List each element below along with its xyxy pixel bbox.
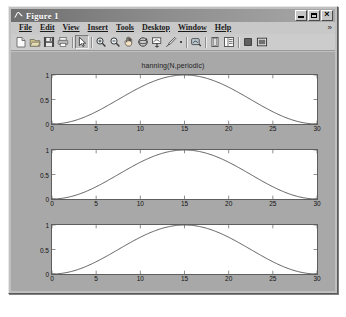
link-plot-icon[interactable]	[189, 35, 203, 49]
legend-icon[interactable]	[222, 35, 236, 49]
subplot-2-ytick-0: 0	[45, 196, 49, 203]
subplot-2-xtick-15: 15	[181, 200, 188, 207]
subplot-3-ytick-0.5: 0.5	[40, 246, 49, 253]
menu-item-help[interactable]: Help	[211, 22, 235, 34]
menubar: File Edit View Insert Tools Desktop Wind…	[11, 22, 335, 34]
subplot-3-xtick-25: 25	[269, 275, 276, 282]
menu-label-edit: Edit	[40, 23, 55, 32]
subplot-1-xtick-5: 5	[94, 125, 98, 132]
toolbar	[11, 34, 335, 51]
subplot-3-ytick-1: 1	[45, 222, 49, 229]
minimize-icon	[298, 16, 304, 18]
subplot-3-xtick-0: 0	[50, 275, 54, 282]
menu-item-insert[interactable]: Insert	[84, 22, 112, 34]
subplot-1-xtick-10: 10	[137, 125, 144, 132]
subplot-1-axes[interactable]: 1 0.5 0 0 5 10 15 20 25 30	[51, 74, 318, 125]
subplot-1-xtick-30: 30	[313, 125, 320, 132]
subplot-3-xtick-20: 20	[225, 275, 232, 282]
menu-label-tools: Tools	[116, 23, 134, 32]
screenshot-root: Figure 1 × File Edit View Insert Tools D…	[0, 0, 346, 317]
subplot-1-plotline	[52, 75, 317, 124]
subplot-1-ytick-1: 1	[45, 72, 49, 79]
subplot-3-xtick-10: 10	[137, 275, 144, 282]
menu-item-desktop[interactable]: Desktop	[138, 22, 174, 34]
minimize-button[interactable]	[295, 10, 307, 21]
brush-data-icon[interactable]	[164, 35, 178, 49]
subplot-2-xtick-30: 30	[313, 200, 320, 207]
zoom-in-icon[interactable]	[94, 35, 108, 49]
subplot-3-ytick-0: 0	[45, 271, 49, 278]
subplot-2-xtick-20: 20	[225, 200, 232, 207]
subplot-2-ytick-1: 1	[45, 147, 49, 154]
menu-item-window[interactable]: Window	[174, 22, 211, 34]
maximize-button[interactable]	[308, 10, 320, 21]
data-cursor-icon[interactable]	[150, 35, 164, 49]
subplot-2-plotline	[52, 150, 317, 199]
matlab-figure-icon	[14, 11, 23, 20]
plot-title: hanning(N,periodic)	[11, 62, 335, 69]
subplot-3-plotline	[52, 225, 317, 274]
zoom-out-icon[interactable]	[108, 35, 122, 49]
close-icon: ×	[322, 10, 332, 19]
menu-label-window: Window	[178, 23, 207, 32]
menu-label-desktop: Desktop	[142, 23, 170, 32]
subplot-2-xtick-10: 10	[137, 200, 144, 207]
menu-label-help: Help	[215, 23, 231, 32]
figure-canvas: hanning(N,periodic) 1 0.5 0 0 5 10 15 20…	[11, 52, 335, 291]
open-file-icon[interactable]	[28, 35, 42, 49]
close-button[interactable]: ×	[321, 10, 333, 21]
edit-plot-icon[interactable]	[75, 35, 89, 49]
subplot-1-ytick-0: 0	[45, 121, 49, 128]
subplot-1-xtick-15: 15	[181, 125, 188, 132]
menu-item-edit[interactable]: Edit	[36, 22, 59, 34]
subplot-2-axes[interactable]: 1 0.5 0 0 5 10 15 20 25 30	[51, 149, 318, 200]
window-titlebar[interactable]: Figure 1 ×	[11, 9, 335, 22]
subplot-3-xtick-30: 30	[313, 275, 320, 282]
print-figure-icon[interactable]	[56, 35, 70, 49]
subplot-2-xtick-0: 0	[50, 200, 54, 207]
window-controls: ×	[295, 10, 333, 21]
subplot-1-xtick-0: 0	[50, 125, 54, 132]
pan-icon[interactable]	[122, 35, 136, 49]
maximize-icon	[311, 13, 317, 18]
menu-overflow-chevron-icon[interactable]: »	[328, 23, 332, 33]
new-figure-icon[interactable]	[14, 35, 28, 49]
subplot-1-ytick-0.5: 0.5	[40, 96, 49, 103]
subplot-1-xtick-20: 20	[225, 125, 232, 132]
subplot-3-axes[interactable]: 1 0.5 0 0 5 10 15 20 25 30	[51, 224, 318, 275]
subplot-3-xtick-15: 15	[181, 275, 188, 282]
subplot-2-xtick-5: 5	[94, 200, 98, 207]
show-plot-tools-icon[interactable]	[255, 35, 269, 49]
menu-item-tools[interactable]: Tools	[112, 22, 138, 34]
subplot-3-xtick-5: 5	[94, 275, 98, 282]
rotate-3d-icon[interactable]	[136, 35, 150, 49]
figure-window: Figure 1 × File Edit View Insert Tools D…	[8, 6, 338, 294]
subplot-1-xtick-25: 25	[269, 125, 276, 132]
menu-label-insert: Insert	[88, 23, 108, 32]
menu-label-view: View	[63, 23, 80, 32]
save-figure-icon[interactable]	[42, 35, 56, 49]
subplot-2-xtick-25: 25	[269, 200, 276, 207]
menu-label-file: File	[19, 23, 32, 32]
colorbar-icon[interactable]	[208, 35, 222, 49]
subplot-2-ytick-0.5: 0.5	[40, 171, 49, 178]
menu-item-view[interactable]: View	[59, 22, 84, 34]
menu-item-file[interactable]: File	[15, 22, 36, 34]
window-title: Figure 1	[26, 11, 295, 21]
hide-plot-tools-icon[interactable]	[241, 35, 255, 49]
